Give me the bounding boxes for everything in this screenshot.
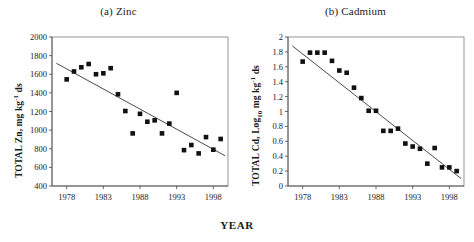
y-tick-label: 1.4 [272,77,283,87]
panel-cadmium-plot: 00.20.40.60.811.21.41.61.821978198319881… [237,0,474,212]
data-point-marker [418,146,423,151]
x-tick-label: 1998 [441,192,458,202]
y-tick-label: 2000 [30,32,47,42]
y-tick-label: 1 [279,107,283,117]
data-point-marker [447,165,452,170]
data-point-marker [160,131,165,136]
data-point-marker [440,165,445,170]
data-point-marker [108,66,113,71]
data-point-marker [123,109,128,114]
data-point-marker [381,129,386,134]
data-point-marker [189,143,194,148]
data-point-marker [182,148,187,153]
y-tick-label: 0.4 [272,151,283,161]
panel-zinc: (a) Zinc TOTAL Zn, mg kg-1 ds 4006008001… [0,0,237,212]
figure-zinc-cadmium-trends: (a) Zinc TOTAL Zn, mg kg-1 ds 4006008001… [0,0,474,242]
data-point-marker [374,108,379,113]
x-tick-label: 1988 [368,192,385,202]
panel-cadmium-y-axis-title: TOTAL Cd, Log10 mg kg-1 ds [249,65,263,186]
shared-x-axis-title: YEAR [0,219,474,231]
data-point-marker [403,141,408,146]
data-point-marker [94,72,99,77]
data-point-marker [352,85,357,90]
regression-line [56,63,225,155]
data-point-marker [72,69,77,74]
data-point-marker [204,135,209,140]
data-point-marker [196,151,201,156]
data-point-marker [315,50,320,55]
x-tick-label: 1978 [58,192,75,202]
plot-frame [52,37,228,186]
y-tick-label: 1.6 [272,62,283,72]
y-tick-label: 0 [279,181,283,191]
y-tick-label: 1800 [30,51,47,61]
data-point-marker [64,77,69,82]
data-point-marker [211,147,216,152]
y-tick-label: 1.8 [272,47,283,57]
data-point-marker [454,169,459,174]
y-tick-label: 0.6 [272,136,283,146]
data-point-marker [366,108,371,113]
x-tick-label: 1993 [404,192,421,202]
x-tick-label: 1978 [294,192,311,202]
data-point-marker [79,65,84,70]
data-point-marker [86,62,91,67]
data-point-marker [138,112,143,117]
data-point-marker [432,146,437,151]
panel-cadmium: (b) Cadmium 00.20.40.60.811.21.41.61.821… [237,0,474,212]
y-tick-label: 1400 [30,88,47,98]
y-tick-label: 400 [34,181,47,191]
y-tick-label: 1200 [30,107,47,117]
data-point-marker [388,129,393,134]
y-tick-label: 1600 [30,69,47,79]
data-point-marker [425,161,430,166]
y-tick-label: 1000 [30,125,47,135]
panel-zinc-plot: 4006008001000120014001600180020001978198… [0,0,237,212]
data-point-marker [218,137,223,142]
y-tick-label: 0.2 [272,166,283,176]
data-point-marker [337,68,342,73]
data-point-marker [396,126,401,131]
data-point-marker [322,50,327,55]
y-tick-label: 1.2 [272,92,283,102]
data-point-marker [145,119,150,124]
data-point-marker [300,59,305,64]
y-tick-label: 600 [34,162,47,172]
data-point-marker [174,91,179,96]
y-tick-label: 2 [279,32,283,42]
data-point-marker [116,92,121,97]
y-tick-label: 0.8 [272,121,283,131]
data-point-marker [167,121,172,126]
x-tick-label: 1993 [168,192,185,202]
data-point-marker [344,70,349,75]
data-point-marker [359,96,364,101]
data-point-marker [410,144,415,149]
x-tick-label: 1983 [95,192,112,202]
data-point-marker [330,59,335,64]
x-tick-label: 1998 [205,192,222,202]
x-tick-label: 1988 [132,192,149,202]
y-tick-label: 800 [34,144,47,154]
data-point-marker [152,118,157,123]
x-tick-label: 1983 [331,192,348,202]
data-point-marker [308,50,313,55]
data-point-marker [101,71,106,76]
data-point-marker [130,131,135,136]
